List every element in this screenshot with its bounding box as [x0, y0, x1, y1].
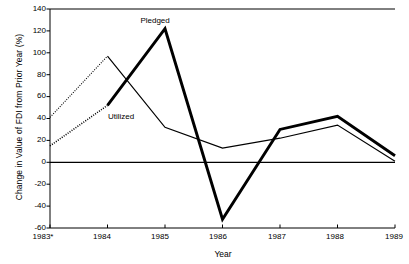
x-tick-marks [50, 225, 395, 229]
utilized-dotted-segment [50, 56, 108, 117]
chart-container: Change in Value of FDI from Prior Year (… [0, 0, 409, 264]
utilized-line [108, 56, 396, 161]
plot-area [0, 0, 409, 264]
pledged-dotted-segment [50, 105, 108, 146]
series-paths [50, 29, 395, 220]
y-tick-marks [47, 9, 51, 228]
pledged-line [108, 29, 396, 220]
